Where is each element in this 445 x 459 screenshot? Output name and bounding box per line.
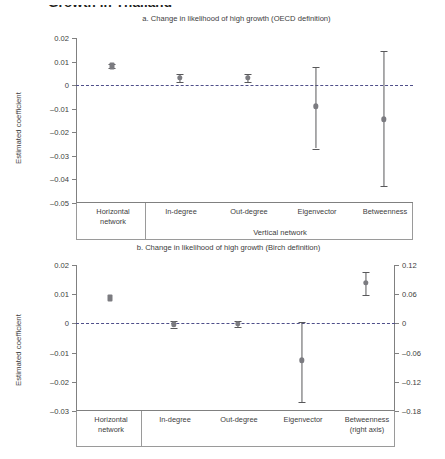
panel-a-ytick-label-7: –0.05 [50, 199, 69, 208]
panel-a-ytick-label-4: –0.02 [50, 128, 69, 137]
panel-b-y2tick-label-0: 0.12 [402, 261, 417, 270]
panel-b-point-horizontal-network[interactable] [104, 265, 116, 411]
error-bar-cap-lower [171, 328, 178, 329]
error-bar-cap-upper [299, 322, 306, 323]
error-bar-cap-lower [381, 186, 388, 187]
data-marker [235, 321, 240, 326]
data-marker [110, 63, 115, 70]
panel-b-ytick-1 [72, 294, 76, 295]
error-bar-cap-lower [235, 327, 242, 328]
panel-a-ytick-label-2: 0 [65, 81, 69, 90]
panel-b-ytick-label-5: –0.03 [50, 407, 69, 416]
panel-a-ytick-3 [72, 109, 76, 110]
panel-b-y-axis-left [76, 265, 77, 411]
category-separator [141, 411, 142, 447]
panel-b-y2tick-4 [395, 382, 399, 383]
panel-a-plot-area: 0.02 0.01 0 –0.01 –0.02 –0.03 –0.04 –0.0… [76, 38, 413, 203]
panel-b-y2tick-0 [395, 265, 399, 266]
category-line-1: Horizontal [96, 207, 129, 216]
data-marker [313, 104, 318, 109]
panel-b-ytick-label-0: 0.02 [54, 261, 69, 270]
panel-a-ytick-1 [72, 62, 76, 63]
data-marker [245, 75, 250, 80]
data-marker [381, 117, 386, 122]
category-line-1: Horizontal [94, 415, 127, 424]
panel-b-category-in-degree: In-degree [159, 415, 191, 425]
data-marker [299, 358, 304, 363]
panel-b-ytick-label-1: 0.01 [54, 290, 69, 299]
panel-b-y2tick-label-4: –0.12 [402, 377, 421, 386]
panel-b-y2tick-3 [395, 353, 399, 354]
panel-b-y2tick-label-3: –0.06 [402, 348, 421, 357]
figure-page: Growth in Thailand a. Change in likeliho… [0, 0, 445, 459]
panel-a-title: a. Change in likelihood of high growth (… [0, 14, 445, 23]
error-bar-cap-lower [363, 295, 370, 296]
error-bar-cap-lower [299, 402, 306, 403]
panel-a-ytick-label-1: 0.01 [54, 57, 69, 66]
panel-b-y2tick-1 [395, 294, 399, 295]
panel-a-category-betweenness: Betweenness [363, 207, 407, 217]
panel-b-category-out-degree: Out-degree [220, 415, 257, 425]
panel-b-point-out-degree[interactable] [232, 265, 244, 411]
panel-b-y2tick-label-2: 0 [402, 319, 406, 328]
panel-b-ytick-label-4: –0.02 [50, 377, 69, 386]
panel-a-category-eigenvector: Eigenvector [297, 207, 336, 217]
panel-a-ytick-label-0: 0.02 [54, 34, 69, 43]
panel-b-y-axis-right [394, 265, 395, 411]
error-bar-cap-lower [245, 82, 252, 83]
panel-b-y2tick-label-1: 0.06 [402, 290, 417, 299]
category-line-2: network [98, 425, 124, 434]
panel-a-category-in-degree: In-degree [165, 207, 197, 217]
panel-b-ytick-0 [72, 265, 76, 266]
error-bar-cap-upper [313, 67, 320, 68]
panel-a-y-axis-label: Estimated coefficient [14, 92, 23, 164]
document-title: Growth in Thailand [48, 0, 172, 10]
error-bar-cap-upper [381, 51, 388, 52]
panel-a-category-band: Horizontal network In-degree Out-degree … [76, 203, 413, 240]
panel-b-point-in-degree[interactable] [168, 265, 180, 411]
panel-a-ytick-label-5: –0.03 [50, 151, 69, 160]
panel-a-ytick-5 [72, 156, 76, 157]
panel-a-point-out-degree[interactable] [242, 38, 254, 203]
panel-a-ytick-label-3: –0.01 [50, 104, 69, 113]
panel-b-title: b. Change in likelihood of high growth (… [0, 243, 445, 252]
panel-a-category-horizontal-network: Horizontal network [96, 207, 129, 227]
panel-b-y2tick-label-5: –0.18 [402, 407, 421, 416]
data-marker [177, 75, 182, 80]
panel-b-y2tick-2 [395, 323, 399, 324]
panel-b-y-axis-label: Estimated coefficient [14, 314, 23, 386]
panel-b-ytick-3 [72, 353, 76, 354]
error-bar-cap-lower [177, 82, 184, 83]
panel-b-category-eigenvector: Eigenvector [283, 415, 322, 425]
panel-b-point-betweenness[interactable] [360, 265, 372, 411]
panel-a-point-betweenness[interactable] [378, 38, 390, 203]
panel-a-y-axis [76, 38, 77, 203]
panel-a-ytick-label-6: –0.04 [50, 175, 69, 184]
panel-a-ytick-0 [72, 38, 76, 39]
data-marker [108, 295, 113, 302]
panel-a-ytick-6 [72, 179, 76, 180]
panel-b-y2tick-5 [395, 411, 399, 412]
category-separator [145, 203, 146, 240]
panel-b-category-horizontal-network: Horizontal network [94, 415, 127, 435]
panel-a-point-horizontal-network[interactable] [106, 38, 118, 203]
panel-a-point-eigenvector[interactable] [310, 38, 322, 203]
panel-b: b. Change in likelihood of high growth (… [0, 243, 445, 459]
panel-a-point-in-degree[interactable] [174, 38, 186, 203]
panel-b-ytick-label-2: 0 [65, 319, 69, 328]
panel-b-point-eigenvector[interactable] [296, 265, 308, 411]
category-line-2: (right axis) [350, 425, 385, 434]
panel-a-group-label-vertical-network: Vertical network [253, 228, 307, 237]
category-line-1: Betweenness [345, 415, 389, 424]
data-marker [171, 322, 176, 327]
panel-b-category-band: Horizontal network In-degree Out-degree … [76, 411, 395, 447]
category-line-2: network [100, 217, 126, 226]
panel-a: a. Change in likelihood of high growth (… [0, 14, 445, 240]
error-bar-cap-upper [363, 272, 370, 273]
panel-b-category-betweenness: Betweenness (right axis) [345, 415, 389, 435]
panel-b-ytick-4 [72, 382, 76, 383]
panel-b-ytick-label-3: –0.01 [50, 348, 69, 357]
data-marker [363, 280, 368, 285]
error-bar-cap-lower [313, 149, 320, 150]
panel-b-plot-area: 0.02 0.01 0 –0.01 –0.02 –0.03 0.12 0.06 … [76, 265, 395, 411]
